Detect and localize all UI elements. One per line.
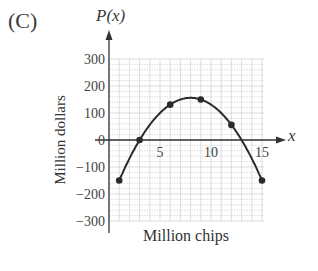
data-point-marker-icon <box>116 177 123 184</box>
data-point-marker-icon <box>198 96 205 103</box>
y-tick-label: −200 <box>76 187 105 202</box>
y-tick-label: 300 <box>84 52 105 67</box>
y-axis-arrow-icon <box>106 30 113 40</box>
data-point-marker-icon <box>167 101 174 108</box>
x-axis-arrow-icon <box>276 137 286 144</box>
x-tick-label: 15 <box>255 145 269 160</box>
data-point-marker-icon <box>259 177 266 184</box>
chart-plot: 510153002001000−100−200−300 <box>0 0 318 271</box>
y-tick-label: 0 <box>98 133 105 148</box>
y-tick-label: −300 <box>76 214 105 229</box>
y-tick-label: −100 <box>76 160 105 175</box>
data-point-marker-icon <box>136 137 143 144</box>
y-tick-label: 200 <box>84 79 105 94</box>
x-tick-label: 10 <box>204 145 218 160</box>
data-point-marker-icon <box>228 122 235 129</box>
x-tick-label: 5 <box>157 145 164 160</box>
y-tick-label: 100 <box>84 106 105 121</box>
